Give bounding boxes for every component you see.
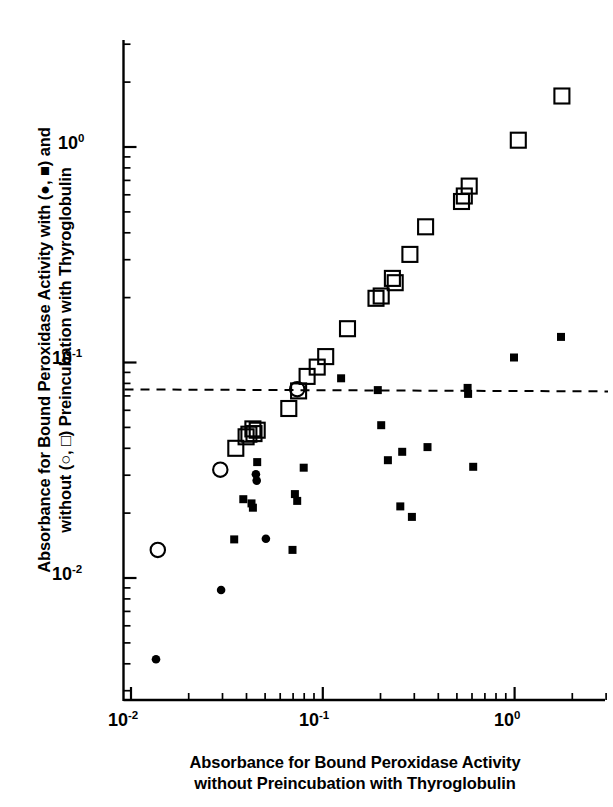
data-point-filled-square: [510, 354, 518, 362]
data-point-filled-square: [469, 463, 477, 471]
data-point-open-square: [402, 247, 417, 262]
data-point-filled-square: [384, 456, 392, 464]
data-point-filled-circle: [217, 586, 226, 595]
data-point-filled-circle: [262, 535, 271, 544]
axis-lines: [124, 40, 606, 701]
data-point-filled-square: [289, 546, 297, 554]
data-point-open-square: [418, 219, 433, 234]
data-point-filled-square: [230, 535, 238, 543]
data-point-open-circle: [151, 543, 165, 557]
data-point-filled-circle: [152, 655, 161, 664]
data-point-filled-square: [464, 390, 472, 398]
data-point-open-square: [462, 179, 477, 194]
series-filled-markers: [152, 333, 565, 664]
data-point-open-square: [554, 89, 569, 104]
data-point-filled-square: [408, 513, 416, 521]
data-point-open-square: [281, 401, 296, 416]
data-point-open-circle: [213, 463, 227, 477]
plot-canvas: [0, 0, 613, 807]
data-point-filled-square: [557, 333, 565, 341]
data-point-open-square: [340, 321, 355, 336]
data-point-filled-square: [253, 458, 261, 466]
series-open-markers: [151, 89, 570, 558]
data-point-filled-square: [398, 448, 406, 456]
threshold-hline: [125, 389, 609, 391]
data-point-filled-square: [377, 421, 385, 429]
threshold-dashed-line: [125, 389, 609, 391]
data-point-open-square: [228, 441, 243, 456]
x-axis-ticks: [131, 687, 606, 700]
y-axis-ticks: [124, 44, 137, 691]
data-point-filled-square: [293, 497, 301, 505]
data-point-filled-square: [424, 443, 432, 451]
data-point-open-square: [300, 369, 315, 384]
data-point-open-square: [511, 133, 526, 148]
data-point-filled-square: [300, 464, 308, 472]
data-point-filled-square: [337, 374, 345, 382]
scatter-plot-figure: Absorbance for Bound Peroxidase Activity…: [0, 0, 613, 807]
data-point-filled-square: [396, 502, 404, 510]
data-point-filled-square: [374, 386, 382, 394]
data-point-filled-square: [239, 495, 247, 503]
data-point-filled-circle: [252, 476, 261, 485]
data-point-filled-square: [249, 504, 257, 512]
